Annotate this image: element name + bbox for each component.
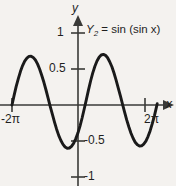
function-expression: sin (sin x) — [111, 23, 160, 35]
x-tick-label-neg-2pi: -2π — [1, 113, 20, 125]
function-variable: Y — [86, 23, 94, 35]
function-equals: = — [101, 23, 108, 35]
y-tick-label-neg-half: -0.5 — [84, 134, 105, 146]
function-annotation: Y2 = sin (sin x) — [86, 24, 160, 38]
y-tick-label-neg-one: -1 — [84, 170, 95, 182]
function-subscript: 2 — [94, 29, 98, 38]
y-axis-label: y — [72, 2, 78, 14]
x-tick-label-2pi: 2π — [144, 113, 159, 125]
x-axis-label: x — [166, 98, 172, 110]
y-tick-label-1: 1 — [57, 26, 64, 38]
graph-figure: y x 1 0.5 -0.5 -1 -2π 2π Y2 = sin (sin x… — [0, 0, 176, 186]
y-axis-arrow — [73, 15, 83, 26]
y-tick-label-half: 0.5 — [49, 62, 66, 74]
